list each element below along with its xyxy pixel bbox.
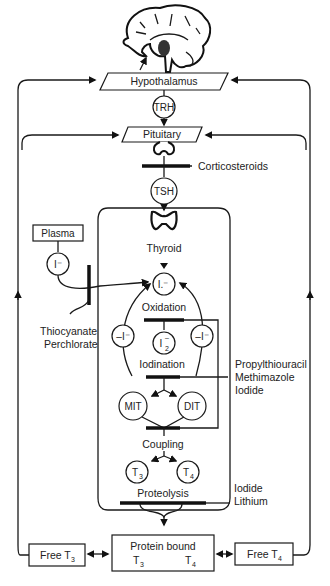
t3-node: T 3 bbox=[126, 461, 148, 483]
propylthiouracil-label: Propylthiouracil bbox=[235, 358, 307, 370]
right-minus-iodide-node: –I⁻ bbox=[191, 325, 213, 347]
thyroid-iodide-label: I.⁻ bbox=[158, 279, 169, 290]
pituitary-node: Pituitary bbox=[122, 127, 202, 142]
left-minus-label: –I⁻ bbox=[116, 331, 129, 342]
i2-node: I 2 – bbox=[153, 332, 175, 354]
protein-bound-label: Protein bound bbox=[130, 540, 196, 552]
thiocyanate-label: Thiocyanate bbox=[40, 325, 97, 337]
pb-t4-subscript: 4 bbox=[192, 561, 196, 568]
pituitary-gland-icon bbox=[154, 142, 174, 154]
free-t3-label: Free T bbox=[40, 549, 71, 561]
left-minus-iodide-node: –I⁻ bbox=[112, 325, 134, 347]
brain-icon bbox=[124, 5, 211, 72]
trh-label: TRH bbox=[154, 102, 175, 113]
t3-subscript: 3 bbox=[139, 473, 143, 480]
thyroid-gland-icon bbox=[151, 212, 176, 229]
t4-label: T bbox=[183, 467, 189, 478]
thyroid-label: Thyroid bbox=[146, 242, 181, 254]
tsh-node: TSH bbox=[151, 178, 177, 204]
lithium-label: Lithium bbox=[234, 495, 268, 507]
free-t4-label: Free T bbox=[247, 548, 278, 560]
perchlorate-label: Perchlorate bbox=[44, 338, 98, 350]
hypothalamus-label: Hypothalamus bbox=[130, 75, 197, 87]
dit-node: DIT bbox=[178, 392, 206, 420]
iodide-label-1: Iodide bbox=[235, 384, 264, 396]
iodination-label: Iodination bbox=[139, 358, 185, 370]
pb-t3-label: T bbox=[133, 554, 140, 566]
plasma-label: Plasma bbox=[41, 228, 75, 239]
free-t3-hypothalamus-feedback bbox=[18, 80, 95, 555]
t3-label: T bbox=[132, 467, 138, 478]
thyroid-iodide-node: I.⁻ bbox=[153, 273, 175, 295]
plasma-iodide-node: I⁻ bbox=[47, 253, 69, 275]
iodide-label-2: Iodide bbox=[234, 482, 263, 494]
dit-label: DIT bbox=[184, 401, 200, 412]
free-t3-node: Free T 3 bbox=[29, 544, 85, 566]
plasma-node: Plasma bbox=[33, 225, 83, 241]
right-minus-label: –I⁻ bbox=[195, 331, 208, 342]
free-t3-subscript: 3 bbox=[71, 556, 75, 563]
free-t4-pituitary-feedback bbox=[206, 135, 306, 150]
t4-subscript: 4 bbox=[190, 473, 194, 480]
free-t4-node: Free T 4 bbox=[235, 543, 293, 565]
proteolysis-label: Proteolysis bbox=[137, 487, 188, 499]
i2-superscript: – bbox=[165, 334, 169, 341]
methimazole-label: Methimazole bbox=[235, 371, 295, 383]
pb-t4-label: T bbox=[185, 554, 192, 566]
i2-label: I bbox=[160, 338, 163, 349]
t4-node: T 4 bbox=[177, 461, 199, 483]
free-t4-subscript: 4 bbox=[278, 555, 282, 562]
mit-label: MIT bbox=[124, 401, 141, 412]
oxidation-label: Oxidation bbox=[142, 301, 187, 313]
hypothalamus-node: Hypothalamus bbox=[100, 73, 228, 90]
protein-bound-node: Protein bound T 3 T 4 bbox=[112, 535, 214, 571]
pituitary-label: Pituitary bbox=[143, 128, 182, 140]
plasma-iodide-label: I⁻ bbox=[54, 259, 62, 270]
mit-node: MIT bbox=[119, 392, 147, 420]
thyroid-regulation-diagram: Hypothalamus TRH Pituitary Corticosteroi… bbox=[0, 0, 330, 586]
corticosteroids-label: Corticosteroids bbox=[198, 160, 268, 172]
i2-subscript: 2 bbox=[165, 345, 169, 352]
pb-t3-subscript: 3 bbox=[140, 561, 144, 568]
coupling-label: Coupling bbox=[142, 438, 184, 450]
trh-node: TRH bbox=[153, 96, 175, 118]
free-t3-pituitary-feedback bbox=[22, 135, 118, 150]
tsh-label: TSH bbox=[154, 186, 174, 197]
